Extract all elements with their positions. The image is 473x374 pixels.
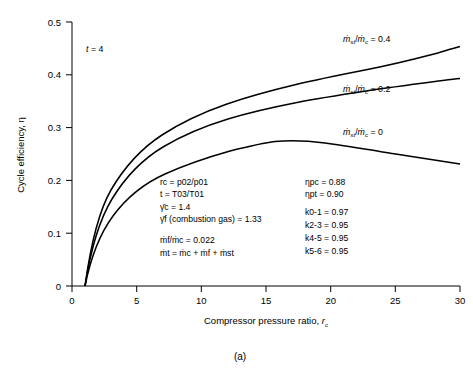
figure-caption: (a) bbox=[234, 351, 246, 362]
curve-value-00: = 0 bbox=[368, 127, 383, 137]
curve-label-mst-0: ṁst/ṁc = 0 bbox=[343, 127, 383, 138]
curve-value-04: = 0.4 bbox=[368, 34, 390, 44]
x-axis-title-text: Compressor pressure ratio, bbox=[204, 315, 322, 326]
annotation-eta-pc: ηpc = 0.88 bbox=[305, 177, 346, 187]
y-tick-label-0.1: 0.1 bbox=[48, 228, 61, 239]
eta-symbol: η bbox=[15, 117, 26, 122]
annotation-fuel-air-ratio: ṁf/ṁc = 0.022 bbox=[160, 235, 215, 245]
y-axis-title-text: Cycle efficiency, bbox=[15, 122, 26, 192]
annotation-k01: k0-1 = 0.97 bbox=[305, 207, 348, 217]
annotation-rc-definition: rc = p02/p01 bbox=[160, 177, 208, 187]
y-ticks-group: 0.5 0.4 0.3 0.2 0.1 0 bbox=[48, 17, 72, 292]
x-tick-label-20: 20 bbox=[325, 295, 336, 306]
chart-svg: 0.5 0.4 0.3 0.2 0.1 0 0 5 10 15 20 25 30… bbox=[0, 0, 473, 374]
curve-value-02: = 0.2 bbox=[368, 84, 390, 94]
annotation-gamma-c: γ̄c = 1.4 bbox=[160, 202, 191, 212]
x-tick-label-30: 30 bbox=[455, 295, 466, 306]
annotation-block-right: ηpc = 0.88 ηpt = 0.90 k0-1 = 0.97 k2-3 =… bbox=[305, 177, 348, 256]
curve-label-mst-0.2: ṁst/ṁc = 0.2 bbox=[343, 84, 390, 95]
mdot-c-symbol: ṁ bbox=[358, 84, 365, 94]
annotation-gamma-f: γ̄f (combustion gas) = 1.33 bbox=[160, 214, 262, 224]
x-tick-label-15: 15 bbox=[261, 295, 272, 306]
x-ticks-group: 0 5 10 15 20 25 30 bbox=[69, 286, 465, 306]
t-value: = 4 bbox=[88, 44, 103, 54]
annotation-k45: k4-5 = 0.95 bbox=[305, 233, 348, 243]
y-tick-label-0.5: 0.5 bbox=[48, 17, 61, 28]
annotation-mass-balance: ṁt = ṁc + ṁf + ṁst bbox=[160, 248, 234, 258]
annotation-eta-pt: ηpt = 0.90 bbox=[305, 189, 344, 199]
y-axis-title: Cycle efficiency, η bbox=[15, 117, 26, 193]
x-tick-label-10: 10 bbox=[196, 295, 207, 306]
y-tick-label-0.2: 0.2 bbox=[48, 175, 61, 186]
x-axis-title: Compressor pressure ratio, rc bbox=[204, 315, 329, 328]
t-parameter-annotation: t = 4 bbox=[86, 44, 103, 54]
curves-group bbox=[85, 47, 460, 287]
mdot-st-symbol: ṁ bbox=[343, 34, 350, 44]
curve-labels-group: ṁst/ṁc = 0.4 ṁst/ṁc = 0.2 ṁst/ṁc =… bbox=[343, 34, 390, 138]
x-tick-label-25: 25 bbox=[390, 295, 401, 306]
mdot-c-symbol: ṁ bbox=[358, 127, 365, 137]
mdot-c-symbol: ṁ bbox=[358, 34, 365, 44]
rc-subscript: c bbox=[325, 321, 329, 328]
annotation-t-definition: t = T03/T01 bbox=[160, 189, 204, 199]
x-tick-label-5: 5 bbox=[134, 295, 139, 306]
figure-container: 0.5 0.4 0.3 0.2 0.1 0 0 5 10 15 20 25 30… bbox=[0, 0, 473, 374]
y-tick-label-0: 0 bbox=[56, 281, 61, 292]
curve-mst-0.4 bbox=[85, 47, 460, 287]
mdot-st-symbol: ṁ bbox=[343, 127, 350, 137]
y-tick-label-0.4: 0.4 bbox=[48, 69, 61, 80]
curve-mst-0.2 bbox=[85, 79, 460, 287]
x-tick-label-0: 0 bbox=[69, 295, 74, 306]
curve-label-mst-0.4: ṁst/ṁc = 0.4 bbox=[343, 34, 390, 45]
annotation-k23: k2-3 = 0.95 bbox=[305, 220, 348, 230]
y-tick-label-0.3: 0.3 bbox=[48, 122, 61, 133]
mdot-st-symbol: ṁ bbox=[343, 84, 350, 94]
annotation-k56: k5-6 = 0.95 bbox=[305, 246, 348, 256]
annotation-block-left: rc = p02/p01 t = T03/T01 γ̄c = 1.4 γ̄f (… bbox=[160, 177, 262, 258]
